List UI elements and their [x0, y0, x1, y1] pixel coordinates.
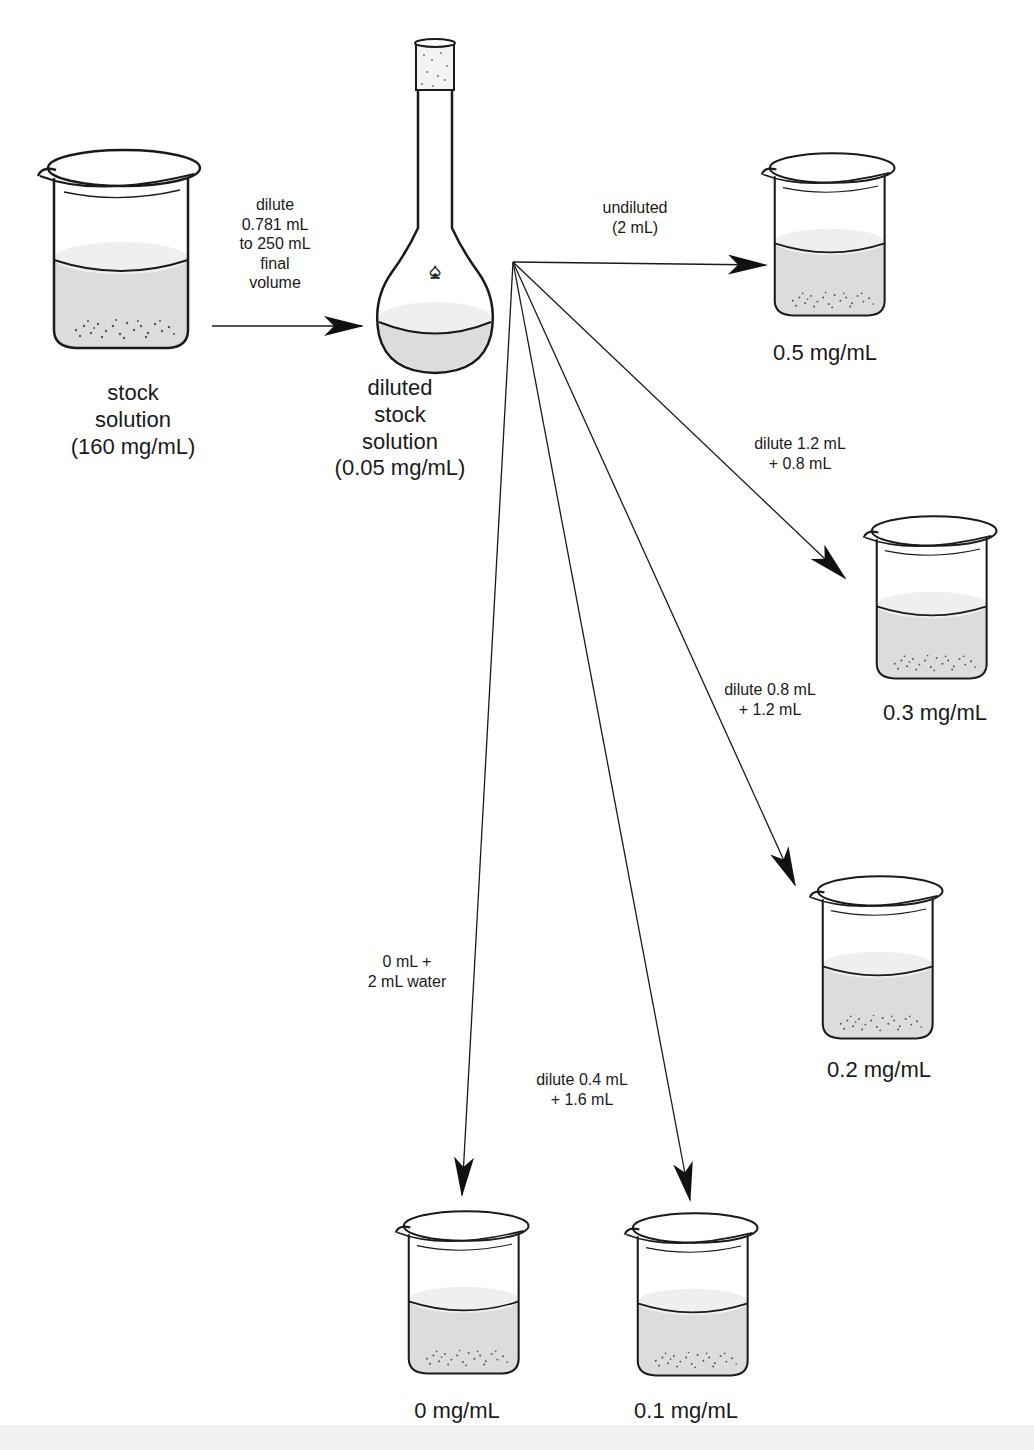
- scan-edge-band: [0, 1425, 1034, 1450]
- diluted-stock-label: diluted stock solution (0.05 mg/mL): [310, 375, 490, 482]
- volumetric-flask-icon: ♠: [377, 39, 493, 373]
- step-label-0-1: dilute 0.4 mL + 1.6 mL: [512, 1070, 652, 1109]
- result-label-0-1: 0.1 mg/mL: [611, 1398, 761, 1425]
- spade-icon: ♠: [430, 260, 441, 282]
- step-label-0-3: dilute 1.2 mL + 0.8 mL: [735, 434, 865, 473]
- stock-dilution-step-label: dilute 0.781 mL to 250 mL final volume: [215, 195, 335, 293]
- beaker-0-1-icon: [625, 1213, 758, 1375]
- arrow-to-0-1: [513, 262, 690, 1200]
- beaker-0-3-icon: [864, 516, 997, 678]
- step-label-0: 0 mL + 2 mL water: [342, 952, 472, 991]
- beaker-0-5-icon: [762, 153, 895, 315]
- result-label-0-3: 0.3 mg/mL: [860, 700, 1010, 727]
- stock-beaker-icon: [38, 150, 200, 348]
- result-label-0-2: 0.2 mg/mL: [804, 1057, 954, 1084]
- dilution-arrows: [462, 262, 845, 1200]
- beaker-0-2-icon: [810, 876, 943, 1038]
- step-label-0-2: dilute 0.8 mL + 1.2 mL: [705, 680, 835, 719]
- result-label-0-5: 0.5 mg/mL: [750, 340, 900, 367]
- stock-solution-label: stock solution (160 mg/mL): [58, 380, 208, 460]
- result-label-0: 0 mg/mL: [382, 1398, 532, 1425]
- step-label-0-5: undiluted (2 mL): [570, 198, 700, 237]
- beaker-0-icon: [396, 1211, 529, 1373]
- arrow-to-0-5: [513, 262, 766, 265]
